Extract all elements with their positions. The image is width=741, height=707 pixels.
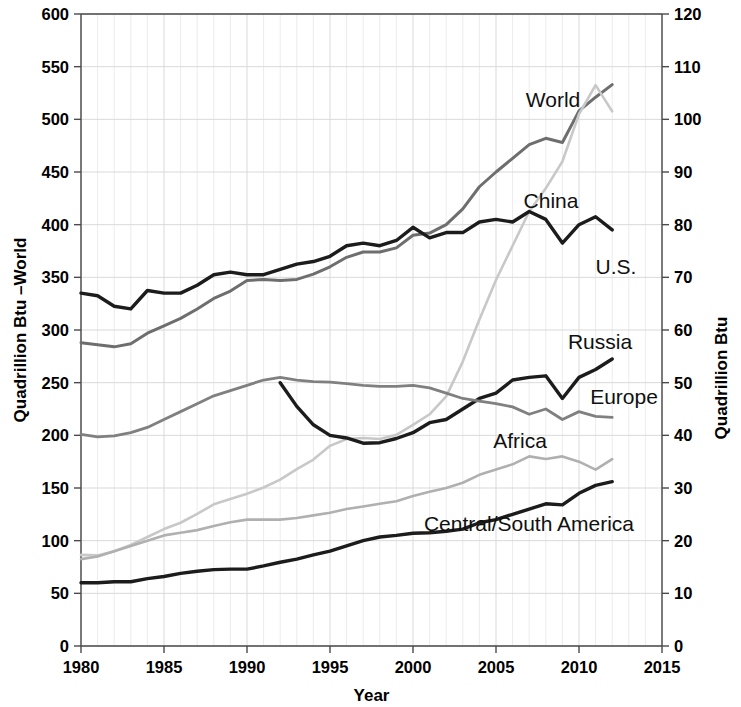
y-axis-left-title: Quadrillion Btu –World <box>11 238 30 423</box>
series-label-europe: Europe <box>590 385 658 408</box>
series-label-u-s: U.S. <box>596 255 637 278</box>
y-axis-left-tick-label: 600 <box>41 5 69 23</box>
y-axis-left-tick-label: 150 <box>41 479 69 497</box>
y-axis-right-tick-label: 110 <box>674 58 701 76</box>
series-label-china: China <box>524 189 579 212</box>
series-label-world: World <box>526 88 580 111</box>
y-axis-right-tick-label: 30 <box>674 479 692 497</box>
y-axis-left-tick-label: 350 <box>41 268 69 286</box>
y-axis-left-tick-label: 550 <box>41 58 69 76</box>
x-axis-tick-label: 2010 <box>561 658 598 676</box>
x-axis-title: Year <box>354 686 390 705</box>
y-axis-right-tick-label: 50 <box>674 374 692 392</box>
y-axis-left-tick-label: 100 <box>41 532 69 550</box>
y-axis-left-tick-label: 450 <box>41 163 69 181</box>
x-axis-tick-label: 2005 <box>478 658 515 676</box>
y-axis-left-tick-label: 0 <box>60 637 69 655</box>
y-axis-left-tick-label: 250 <box>41 374 69 392</box>
y-axis-right-tick-label: 120 <box>674 5 702 23</box>
series-label-central-south-america: Central/South America <box>424 512 634 535</box>
y-axis-right-tick-label: 40 <box>674 426 692 444</box>
y-axis-right-tick-label: 60 <box>674 321 692 339</box>
y-axis-left-tick-label: 200 <box>41 426 69 444</box>
y-axis-right-tick-label: 20 <box>674 532 692 550</box>
y-axis-right-tick-label: 10 <box>674 584 692 602</box>
y-axis-right-tick-label: 70 <box>674 268 692 286</box>
x-axis-tick-label: 2000 <box>395 658 432 676</box>
chart-container: 0501001502002503003504004505005506000102… <box>0 0 741 707</box>
y-axis-right-tick-label: 80 <box>674 216 692 234</box>
x-axis-tick-label: 1985 <box>146 658 183 676</box>
x-axis-tick-label: 1995 <box>312 658 349 676</box>
y-axis-right-tick-label: 90 <box>674 163 692 181</box>
y-axis-left-tick-label: 50 <box>51 584 69 602</box>
y-axis-left-tick-label: 400 <box>41 216 69 234</box>
series-label-africa: Africa <box>493 429 547 452</box>
energy-consumption-line-chart: 0501001502002503003504004505005506000102… <box>0 0 741 707</box>
y-axis-right-tick-label: 0 <box>674 637 683 655</box>
x-axis-tick-label: 1990 <box>229 658 266 676</box>
chart-background <box>0 0 741 707</box>
y-axis-left-tick-label: 500 <box>41 110 69 128</box>
x-axis-tick-label: 2015 <box>644 658 681 676</box>
x-axis-tick-label: 1980 <box>63 658 100 676</box>
y-axis-right-tick-label: 100 <box>674 110 702 128</box>
y-axis-right-title: Quadrillion Btu <box>712 317 731 440</box>
series-label-russia: Russia <box>568 330 633 353</box>
y-axis-left-tick-label: 300 <box>41 321 69 339</box>
